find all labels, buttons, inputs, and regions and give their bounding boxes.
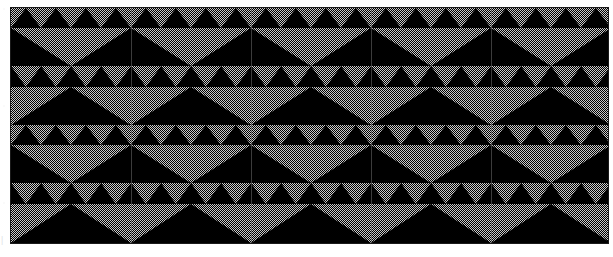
tessellation-band-downward-dark-3	[11, 183, 608, 243]
tessellation-plate	[11, 8, 608, 243]
cell-boundary-rule	[491, 8, 492, 243]
tessellation-band-upward-light-0	[11, 8, 608, 66]
cell-boundary-rule	[371, 8, 372, 243]
tessellation-band-downward-dark-1	[11, 66, 608, 125]
figure-page: |	[0, 0, 613, 257]
cell-boundary-rule	[251, 8, 252, 243]
tessellation-band-upward-light-2	[11, 125, 608, 183]
page-edge-mark: |	[1, 233, 8, 246]
cell-boundary-rule	[131, 8, 132, 243]
